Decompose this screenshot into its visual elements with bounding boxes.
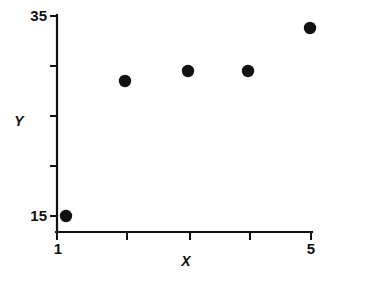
data-point	[60, 210, 72, 222]
data-point	[182, 65, 194, 77]
x-axis-tick-label-last: 5	[307, 240, 315, 257]
y-axis-title: Y	[14, 113, 25, 129]
data-point-series	[60, 22, 316, 222]
data-point	[304, 22, 316, 34]
x-axis-tick-label-first: 1	[54, 240, 62, 257]
y-axis-tick-label-bottom: 15	[30, 207, 47, 224]
x-axis-title: X	[180, 253, 192, 269]
scatter-plot-figure: 35 15 1 5 Y X	[0, 0, 374, 283]
x-tick-marks	[57, 232, 311, 240]
data-point	[242, 65, 254, 77]
plot-canvas: 35 15 1 5 Y X	[0, 0, 374, 283]
y-axis-tick-label-top: 35	[30, 7, 47, 24]
axes-group	[56, 15, 312, 232]
data-point	[119, 75, 131, 87]
